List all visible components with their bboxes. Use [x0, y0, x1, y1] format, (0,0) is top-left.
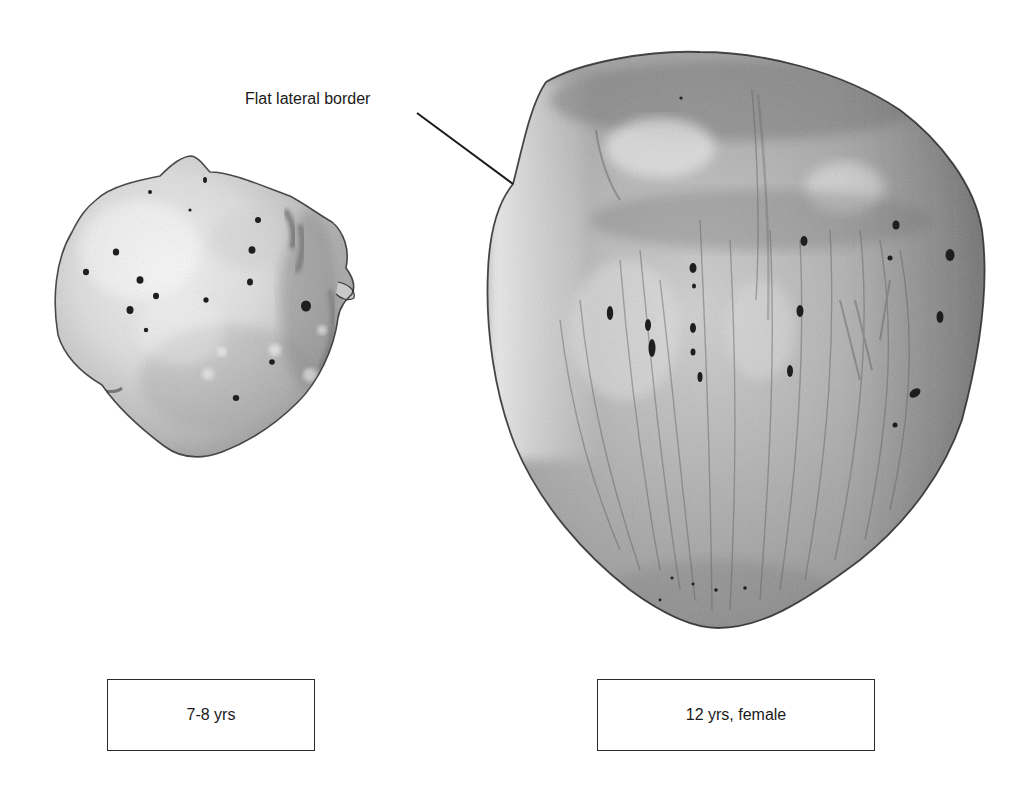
flat-lateral-border-label: Flat lateral border — [245, 90, 370, 108]
annotation-leader-line — [417, 113, 513, 184]
patella-comparison-figure: Flat lateral border 7-8 yrs 12 yrs, fema… — [0, 0, 1036, 792]
caption-text: 12 yrs, female — [686, 706, 786, 724]
caption-box-7-8-yrs: 7-8 yrs — [107, 679, 315, 751]
small-patella-illustration — [40, 140, 370, 470]
large-patella-illustration — [480, 40, 1000, 640]
illustration-canvas — [0, 0, 1036, 792]
caption-text: 7-8 yrs — [187, 706, 236, 724]
caption-box-12-yrs-female: 12 yrs, female — [597, 679, 875, 751]
